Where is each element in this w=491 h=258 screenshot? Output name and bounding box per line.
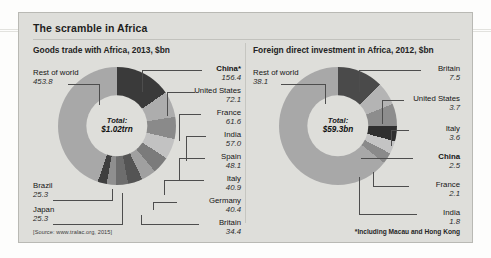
- label-italy-left: Italy 40.9: [226, 175, 241, 192]
- leader-italy-left-v: [164, 180, 165, 195]
- label-france-left: France 61.6: [217, 109, 241, 126]
- label-france-right: France 2.1: [436, 181, 460, 198]
- leader-spain: [179, 158, 205, 159]
- leader-united-states-left: [167, 92, 195, 93]
- donut-center-value: $1.02trn: [101, 126, 132, 135]
- leader-france-left: [179, 114, 201, 115]
- figure-title: The scramble in Africa: [33, 22, 147, 34]
- label-india-right: India 1.8: [443, 209, 460, 226]
- label-britain-right: Britain 7.5: [438, 65, 460, 82]
- donut-center-value-fdi: $59.3bn: [323, 126, 354, 135]
- label-india-left: India 57.0: [224, 131, 241, 148]
- source-note: [Source: www.tralac.org, 2015]: [33, 229, 112, 235]
- label-united-states-right: United States 3.7: [413, 95, 460, 112]
- label-brazil: Brazil 25.3: [33, 182, 53, 199]
- leader-china-right: [361, 158, 413, 159]
- leader-rest-of-world: [68, 84, 100, 85]
- leader-japan: [53, 224, 123, 225]
- leader-france-right: [373, 186, 409, 187]
- leader-india-right: [359, 214, 417, 215]
- leader-china-left: [142, 70, 202, 71]
- donut-center-label-fdi: Total:: [328, 117, 348, 126]
- leader-france-right-v: [373, 172, 374, 187]
- panel-divider: [245, 43, 246, 223]
- leader-india-right-v: [359, 177, 360, 215]
- leader-italy-right: [391, 130, 409, 131]
- leader-italy-right-v: [391, 130, 392, 146]
- label-japan: Japan 25.3: [33, 206, 54, 223]
- leader-britain-right: [359, 70, 421, 71]
- leader-china-left-v: [142, 70, 143, 92]
- leader-italy-left: [164, 180, 204, 181]
- donut-center-label: Total:: [107, 117, 127, 126]
- leader-united-states-right: [382, 100, 404, 101]
- leader-france-left-v: [179, 114, 180, 141]
- label-spain: Spain 48.1: [221, 153, 241, 170]
- leader-spain-v: [179, 158, 180, 180]
- leader-japan-v: [122, 193, 123, 225]
- leader-britain-left: [141, 224, 199, 225]
- leader-us-right-v: [382, 100, 383, 124]
- label-germany: Germany 40.4: [209, 197, 241, 214]
- label-china-left: China* 156.4: [216, 65, 241, 82]
- label-britain-left: Britain 34.4: [219, 219, 241, 236]
- leader-britain-right-v: [359, 70, 360, 92]
- leader-rest-of-world-v: [99, 84, 100, 105]
- leader-india-left: [186, 136, 206, 137]
- figure-panel: The scramble in Africa Goods trade with …: [18, 12, 473, 243]
- label-italy-right: Italy 3.6: [446, 125, 460, 142]
- title-divider: [33, 39, 460, 40]
- leader-us-left-v: [167, 92, 168, 116]
- leader-brazil: [53, 200, 113, 201]
- leader-brazil-v: [112, 189, 113, 201]
- leader-germany: [153, 202, 177, 203]
- chart-title-goods-trade: Goods trade with Africa, 2013, $bn: [33, 45, 170, 55]
- chart-title-fdi: Foreign direct investment in Africa, 201…: [253, 45, 434, 55]
- chart-panel-goods-trade: Goods trade with Africa, 2013, $bn Total…: [31, 43, 243, 242]
- leader-germany-v: [153, 202, 154, 210]
- leader-britain-left-v: [141, 215, 142, 225]
- label-china-right: China 2.5: [438, 153, 460, 170]
- chart-panel-fdi: Foreign direct investment in Africa, 201…: [251, 43, 462, 242]
- leader-rest-right-v: [325, 84, 326, 104]
- label-united-states-left: United States 72.1: [194, 87, 241, 104]
- footnote-china: *Including Macau and Hong Kong: [355, 228, 460, 235]
- leader-rest-of-world-right: [281, 84, 326, 85]
